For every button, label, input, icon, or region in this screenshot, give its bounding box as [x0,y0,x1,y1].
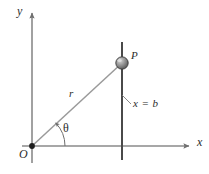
origin-dot [29,143,35,149]
radius-ray [32,63,122,146]
x-axis-label: x [197,136,202,148]
diagram-svg [0,0,209,174]
radius-label: r [69,88,73,99]
point-p-label: P [131,50,138,61]
line-equation-label: x = b [133,98,158,109]
angle-theta-label: θ [63,122,69,134]
origin-label: O [19,148,28,160]
y-axis-label: y [17,5,22,17]
point-p-marker [116,57,128,69]
leader-line-x-equals-b [122,95,131,104]
figure-canvas: y x O P r θ x = b [0,0,209,174]
